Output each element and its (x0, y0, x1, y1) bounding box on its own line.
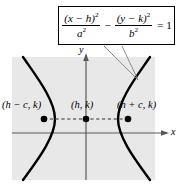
x-denominator-exponent: 2 (82, 26, 86, 34)
fraction-y-denominator: b2 (127, 26, 140, 39)
label-right-focus: (h + c, k) (117, 100, 156, 111)
fraction-y-numerator: (y − k)2 (115, 12, 153, 26)
x-axis-label: x (171, 127, 175, 137)
label-left-focus: (h − c, k) (2, 100, 41, 111)
y-denominator-exponent: 2 (134, 26, 138, 34)
fraction-x-term: (x − h)2 a2 (62, 12, 100, 38)
fraction-x-denominator: a2 (75, 26, 88, 39)
center-dot (83, 116, 90, 123)
y-axis-label: y (79, 45, 83, 55)
x-numerator-exponent: 2 (95, 11, 99, 19)
label-center: (h, k) (71, 100, 93, 111)
focus-dot-left (41, 116, 48, 123)
focus-dot-right (125, 116, 132, 123)
equation-expression: (x − h)2 a2 − (y − k)2 b2 = 1 (61, 12, 171, 38)
fraction-y-term: (y − k)2 b2 (115, 12, 153, 38)
y-numerator-exponent: 2 (147, 11, 151, 19)
equals-one-text: = 1 (157, 20, 171, 31)
y-numerator-text: (y − k) (117, 12, 147, 24)
fraction-x-numerator: (x − h)2 (62, 12, 100, 26)
minus-operator: − (104, 20, 110, 31)
x-numerator-text: (x − h) (64, 12, 95, 24)
x-axis-arrowhead (161, 130, 169, 136)
hyperbola-diagram: (x − h)2 a2 − (y − k)2 b2 = 1 (h − c, k)… (0, 0, 182, 188)
equation-callout-box: (x − h)2 a2 − (y − k)2 b2 = 1 (58, 6, 175, 45)
